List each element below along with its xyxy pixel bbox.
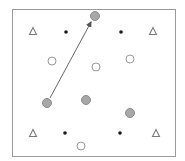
- triangle-markers: [30, 28, 160, 137]
- diagram-canvas: [0, 0, 185, 161]
- dot-icon: [119, 30, 123, 34]
- dot-icon: [63, 131, 67, 135]
- open-circle-icon: [48, 57, 56, 65]
- open-circle-icon: [92, 63, 100, 71]
- open-circle-markers: [48, 55, 134, 150]
- grey-circle-icon: [91, 12, 100, 21]
- grey-circle-icon: [43, 99, 52, 108]
- triangle-icon: [153, 130, 160, 137]
- grey-circle-icon: [126, 109, 135, 118]
- triangle-icon: [150, 28, 157, 35]
- open-circle-icon: [77, 142, 85, 150]
- dot-icon: [118, 131, 122, 135]
- dot-icon: [64, 30, 68, 34]
- triangle-icon: [30, 130, 37, 137]
- dot-markers: [63, 30, 123, 135]
- open-circle-icon: [126, 55, 134, 63]
- triangle-icon: [30, 28, 37, 35]
- grey-circle-icon: [82, 96, 91, 105]
